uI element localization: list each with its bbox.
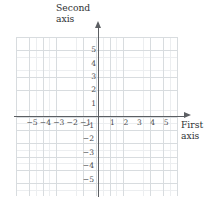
x-tick-label-neg2: −2: [65, 119, 79, 127]
y-tick-label-neg2: −2: [82, 135, 94, 143]
y-tick-label-neg5: −5: [82, 176, 94, 184]
x-tick-label-1: 1: [106, 119, 120, 127]
y-tick-label-neg4: −4: [82, 162, 94, 170]
arrow-up-icon: [95, 21, 101, 28]
y-tick-label-2: 2: [84, 86, 96, 94]
horizontal-axis-title: First axis: [181, 120, 203, 141]
horizontal-axis-title-line2: axis: [181, 131, 203, 142]
x-tick-label-3: 3: [132, 119, 146, 127]
y-tick-label-3: 3: [84, 73, 96, 81]
y-tick-label-neg3: −3: [82, 149, 94, 157]
vertical-axis-title-line2: axis: [56, 14, 90, 25]
vertical-axis-title-line1: Second: [56, 3, 90, 14]
x-tick-label-neg3: −3: [52, 119, 66, 127]
vertical-axis-title: Second axis: [56, 3, 90, 24]
y-tick-label-4: 4: [84, 60, 96, 68]
y-tick-label-5: 5: [84, 46, 96, 54]
arrow-right-icon: [184, 112, 191, 118]
coordinate-plane-figure: 5 4 3 2 1 −1 −2 −3 −4 −5 −5 −4 −3 −2 −1 …: [0, 0, 213, 210]
x-tick-label-neg1: −1: [79, 119, 93, 127]
x-tick-label-neg4: −4: [38, 119, 52, 127]
x-tick-label-2: 2: [119, 119, 133, 127]
x-tick-label-4: 4: [146, 119, 160, 127]
y-tick-label-1: 1: [84, 100, 96, 108]
x-tick-label-neg5: −5: [25, 119, 39, 127]
horizontal-axis-title-line1: First: [181, 120, 203, 131]
vertical-axis-line: [98, 23, 99, 197]
x-tick-label-5: 5: [159, 119, 173, 127]
